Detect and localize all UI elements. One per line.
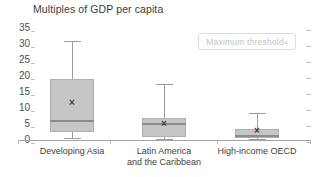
y-axis-tick xyxy=(31,127,35,128)
y-axis-tick-label: 10 xyxy=(0,102,30,114)
y-axis-tick-label: 15 xyxy=(0,86,30,98)
category-label-line: and the Caribbean xyxy=(127,157,201,168)
boxplot-chart: Multiples of GDP per capita Maximum thre… xyxy=(0,0,324,177)
right-axis-tick xyxy=(306,126,311,127)
mean-marker: × xyxy=(69,98,75,108)
boxplot-lower-whisker-cap xyxy=(249,139,266,140)
x-axis-divider-tick xyxy=(18,140,19,144)
category-label: Developing Asia xyxy=(40,146,105,157)
right-axis-tick xyxy=(306,94,311,95)
median-line xyxy=(50,120,94,122)
boxplot-upper-whisker-cap xyxy=(156,84,173,85)
right-axis-tick xyxy=(306,110,311,111)
right-axis-tick xyxy=(306,78,311,79)
boxplot-upper-whisker-cap xyxy=(64,41,81,42)
chart-title: Multiples of GDP per capita xyxy=(33,3,163,15)
category-label-line: Latin America xyxy=(127,146,201,157)
right-axis-tick xyxy=(306,46,311,47)
y-axis-tick xyxy=(31,95,35,96)
boxplot-upper-whisker-cap xyxy=(249,113,266,114)
mean-marker: × xyxy=(254,126,260,136)
right-axis-tick xyxy=(306,30,311,31)
boxplot-lower-whisker-cap xyxy=(64,138,81,139)
category-label-line: High-income OECD xyxy=(217,146,296,157)
x-axis-divider-tick xyxy=(110,140,111,144)
y-axis-tick xyxy=(31,63,35,64)
footnote-marker-icon: a xyxy=(284,39,287,45)
boxplot-upper-whisker xyxy=(164,84,165,118)
y-axis-tick-label: 35 xyxy=(0,22,30,34)
category-label: High-income OECD xyxy=(217,146,296,157)
y-axis-tick xyxy=(31,47,35,48)
right-axis-tick xyxy=(306,62,311,63)
x-axis-divider-tick xyxy=(310,140,311,144)
maximum-threshold-label: Maximum threshold xyxy=(206,37,284,47)
y-axis-tick xyxy=(31,31,35,32)
x-axis-divider-tick xyxy=(217,140,218,144)
y-axis-tick xyxy=(31,111,35,112)
y-axis-tick-label: 30 xyxy=(0,38,30,50)
category-label-line: Developing Asia xyxy=(40,146,105,157)
mean-marker: × xyxy=(161,119,167,129)
x-axis-line xyxy=(18,140,310,141)
y-axis-tick xyxy=(31,143,35,144)
category-label: Latin Americaand the Caribbean xyxy=(127,146,201,167)
boxplot-lower-whisker-cap xyxy=(156,139,173,140)
y-axis-tick-label: 25 xyxy=(0,54,30,66)
maximum-threshold-badge: Maximum thresholda xyxy=(198,33,296,50)
y-axis-tick xyxy=(31,79,35,80)
y-axis-tick-label: 5 xyxy=(0,118,30,130)
boxplot-upper-whisker xyxy=(72,41,73,79)
y-axis-tick-label: 20 xyxy=(0,70,30,82)
